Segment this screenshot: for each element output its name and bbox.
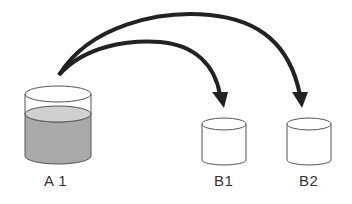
arrow-a1-to-b1 <box>59 42 228 108</box>
container-a1 <box>25 86 91 164</box>
container-b1 <box>202 118 246 165</box>
arrow-a1-to-b2 <box>59 14 308 108</box>
label-b2: B2 <box>299 172 318 189</box>
container-b2 <box>287 118 331 165</box>
label-b1: B1 <box>214 172 233 189</box>
label-a1: A 1 <box>44 172 67 189</box>
